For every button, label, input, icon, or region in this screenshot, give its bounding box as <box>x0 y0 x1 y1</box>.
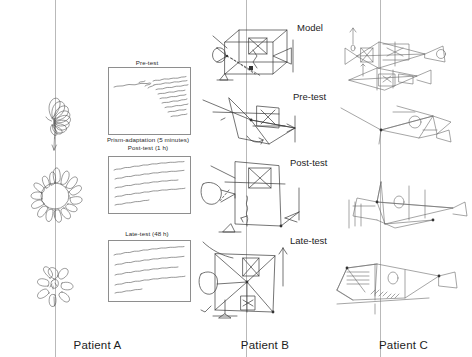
patient-label-c: Patient C <box>335 339 472 351</box>
stage-label-late-test: Late-test <box>290 235 327 246</box>
shape-drawing-pre-test <box>199 96 309 158</box>
fish-drawing-post-test <box>335 176 469 246</box>
patient-b-column: Patient B <box>195 0 335 357</box>
handwriting-box-post-test <box>108 156 191 214</box>
patient-c-column: Model Pre-test Post-test Late-test <box>335 0 472 357</box>
fish-drawing-late-test <box>335 248 469 320</box>
figure-root: Pre-test Prism-adaptation (5 minutes) Po… <box>0 0 472 357</box>
daisy-drawing-pre-test <box>8 72 98 158</box>
stage-label-model: Model <box>297 22 323 33</box>
prism-adaptation-text: Prism-adaptation (5 minutes) <box>98 136 198 144</box>
timeline-label-prism-adaptation: Prism-adaptation (5 minutes) Post-test (… <box>98 136 198 151</box>
post-test-text: Post-test (1 h) <box>98 144 198 152</box>
handwriting-box-pre-test <box>108 67 191 135</box>
shape-drawing-late-test <box>197 240 307 322</box>
patient-label-b: Patient B <box>195 339 335 351</box>
daisy-drawing-post-test <box>8 158 98 236</box>
fish-drawing-model <box>339 18 469 98</box>
timeline-label-late-test: Late-test (48 h) <box>104 230 190 237</box>
patient-label-a: Patient A <box>0 339 195 351</box>
fish-drawing-pre-test <box>337 100 469 162</box>
stage-label-pre-test: Pre-test <box>293 91 326 102</box>
patient-a-column: Pre-test Prism-adaptation (5 minutes) Po… <box>0 0 195 357</box>
timeline-label-pre-test: Pre-test <box>104 59 190 66</box>
handwriting-box-late-test <box>108 240 191 302</box>
shape-drawing-post-test <box>199 158 309 236</box>
shape-drawing-model <box>203 14 303 86</box>
stage-label-post-test: Post-test <box>290 157 328 168</box>
daisy-drawing-late-test <box>8 243 98 323</box>
